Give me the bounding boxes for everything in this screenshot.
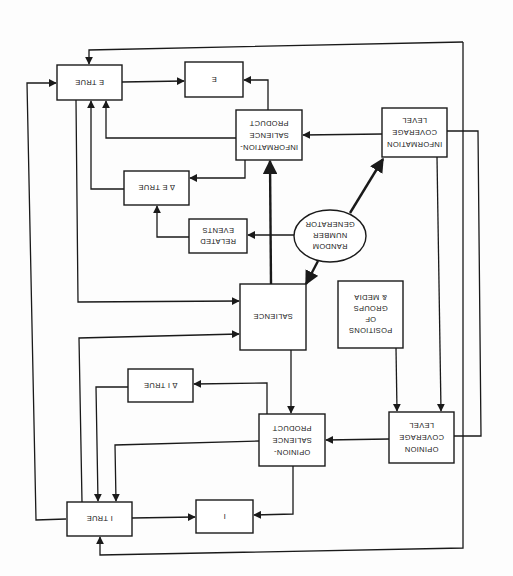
node-label: LEVEL <box>402 116 427 125</box>
node-label: SALIENCE <box>253 312 293 321</box>
edge-rng-to-salience <box>306 261 318 284</box>
node-label: SALIENCE <box>272 436 312 445</box>
edge-icl-to-ocl <box>437 157 441 411</box>
node-opinion-coverage-level: OPINION COVERAGE LEVEL <box>389 412 454 463</box>
node-delta-e-true: ∆ E TRUE <box>124 171 189 205</box>
node-i: I <box>196 500 253 533</box>
node-label: POSITIONS <box>349 326 393 335</box>
edge-related-to-detrue <box>157 206 189 237</box>
node-delta-i-true: ∆ I TRUE <box>128 369 193 402</box>
node-information-salience-product: INFORMATION- SALIENCE PRODUCT <box>236 110 302 160</box>
node-label: OF <box>365 315 376 324</box>
node-i-true: I TRUE <box>67 502 132 536</box>
edge-icl-ocl-side-loop <box>447 131 481 436</box>
node-label: OPINION <box>405 445 439 454</box>
edge-itrue-to-etrue-left <box>27 83 66 520</box>
node-label: LEVEL <box>409 421 434 430</box>
node-opinion-salience-product: OPINION- SALIENCE PRODUCT <box>259 414 325 466</box>
edge-osp-to-ditrue <box>194 383 267 414</box>
edge-icl-to-isp <box>303 134 382 135</box>
edge-itrue-to-salience <box>79 334 239 502</box>
node-e-true: E TRUE <box>57 65 122 100</box>
edge-ditrue-to-itrue <box>96 387 128 501</box>
edge-isp-to-detrue <box>190 160 245 178</box>
node-label: & MEDIA <box>354 293 387 302</box>
node-label: NUMBER <box>313 231 348 240</box>
node-positions-of-groups-media: POSITIONS OF GROUPS & MEDIA <box>338 281 403 348</box>
edge-etrue-to-e <box>122 81 184 82</box>
edge-osp-to-itrue <box>115 441 259 501</box>
node-label: I <box>223 512 225 521</box>
node-label: PRODUCT <box>249 119 288 128</box>
edge-isp-to-e <box>244 80 268 110</box>
edge-osp-to-i <box>254 466 293 515</box>
edge-itrue-to-i <box>132 517 195 518</box>
node-information-coverage-level: INFORMATION COVERAGE LEVEL <box>382 108 447 157</box>
edge-positions-to-ocl <box>396 348 397 411</box>
node-label: ∆ I TRUE <box>144 381 178 390</box>
edge-outer-loop-to-etrue <box>89 42 463 64</box>
node-label: INFORMATION <box>387 140 442 149</box>
node-label: GENERATOR <box>305 220 355 229</box>
edge-detrue-to-etrue <box>91 101 124 189</box>
node-label: OPINION- <box>274 448 311 457</box>
node-label: E TRUE <box>75 78 104 87</box>
node-label: RANDOM <box>312 242 347 251</box>
node-related-events: RELATED EVENTS <box>189 219 247 253</box>
node-label: I TRUE <box>86 514 112 523</box>
node-label: GROUPS <box>353 304 387 313</box>
node-random-number-generator: RANDOM NUMBER GENERATOR <box>294 210 366 262</box>
flow-diagram: E TRUE E INFORMATION- SALIENCE PRODUCT I… <box>0 0 513 576</box>
edge-isp-to-etrue <box>106 101 236 138</box>
node-e: E <box>185 62 243 97</box>
node-label: PRODUCT <box>272 424 311 433</box>
node-salience: SALIENCE <box>240 284 306 350</box>
node-label: COVERAGE <box>399 433 444 442</box>
edge-ocl-to-osp <box>326 439 389 440</box>
node-label: SALIENCE <box>249 131 289 140</box>
node-label: ∆ E TRUE <box>138 183 174 192</box>
node-label: RELATED <box>200 237 236 246</box>
edge-rng-to-icl <box>350 159 383 213</box>
node-label: COVERAGE <box>392 128 437 137</box>
node-label: E <box>211 75 216 84</box>
node-label: EVENTS <box>202 226 234 235</box>
node-label: INFORMATION- <box>240 143 298 152</box>
edge-salience-to-isp <box>270 161 271 284</box>
